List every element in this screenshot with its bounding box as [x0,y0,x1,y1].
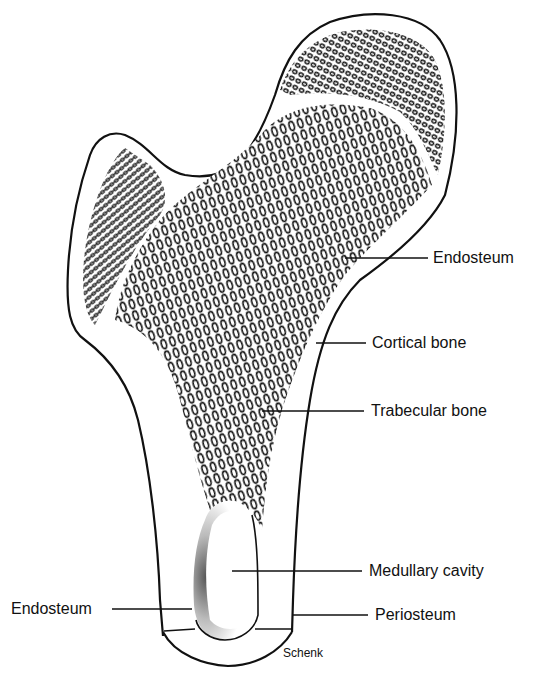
medullary-cavity-inner [206,511,253,629]
label-endosteum-upper: Endosteum [433,249,514,267]
illustrator-credit: Schenk [283,646,323,660]
label-periosteum: Periosteum [375,606,456,624]
label-medullary-cavity: Medullary cavity [369,562,484,580]
label-endosteum-lower: Endosteum [11,600,92,618]
label-trabecular-bone: Trabecular bone [371,402,487,420]
label-cortical-bone: Cortical bone [372,334,466,352]
